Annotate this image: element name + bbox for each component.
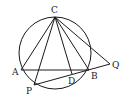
segment-CB <box>55 17 89 70</box>
segment-CA <box>21 17 55 70</box>
segment-CP <box>34 17 55 85</box>
label-Q: Q <box>112 60 119 70</box>
circumcircle <box>19 17 91 89</box>
label-C: C <box>51 5 58 15</box>
label-A: A <box>11 67 19 77</box>
segment-CD <box>55 17 72 74</box>
label-B: B <box>91 71 98 81</box>
label-P: P <box>26 86 32 96</box>
label-D: D <box>68 76 75 86</box>
diagram-svg: C A B D P Q <box>0 0 127 105</box>
segment-CQ <box>55 17 110 64</box>
geometry-diagram: C A B D P Q <box>0 0 127 105</box>
